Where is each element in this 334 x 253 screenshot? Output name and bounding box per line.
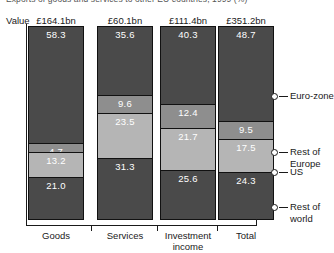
- bar-segment: 31.3: [97, 158, 153, 220]
- bar-goods: 58.34.713.221.0: [28, 26, 84, 223]
- segment-value: 31.3: [115, 159, 134, 172]
- callout-dot: [271, 149, 278, 156]
- legend-label-line-1: Rest of: [290, 146, 321, 158]
- segment-value: 25.6: [178, 171, 197, 184]
- x-axis-category-label: Total: [204, 230, 288, 241]
- segment-value: 48.7: [236, 27, 255, 40]
- bar-segment: 12.4: [160, 104, 216, 128]
- segment-value: 40.3: [178, 27, 197, 40]
- bar-segment: 21.0: [28, 177, 84, 220]
- bar-total: 48.79.517.524.3: [218, 26, 274, 223]
- segment-value: 21.0: [46, 178, 65, 191]
- bar-segment: 25.6: [160, 170, 216, 220]
- bar-segment: 40.3: [160, 26, 216, 105]
- segment-value: 58.3: [46, 27, 65, 40]
- chart-title-partial: Exports of goods and services to other E…: [6, 0, 306, 4]
- segment-value: 35.6: [115, 27, 134, 40]
- bar-segment: 35.6: [97, 26, 153, 96]
- legend-label-line-1: US: [290, 166, 303, 178]
- callout-dot: [271, 93, 278, 100]
- bar-investment: 40.312.421.725.6: [160, 26, 216, 223]
- bar-segment: 23.5: [97, 113, 153, 159]
- column-value-total: £351.2bn: [204, 15, 288, 26]
- bar-segment: 21.7: [160, 128, 216, 171]
- callout-leader-line: [279, 96, 288, 97]
- legend-label-euro-zone: Euro-zone: [290, 90, 334, 102]
- segment-value: 12.4: [178, 105, 197, 118]
- segment-value: 23.5: [115, 114, 134, 127]
- segment-value: 24.3: [236, 173, 255, 186]
- callout-dot: [271, 169, 278, 176]
- segment-value: 17.5: [236, 140, 255, 153]
- segment-value: 21.7: [178, 129, 197, 142]
- bar-segment: 17.5: [218, 139, 274, 173]
- legend-label-line-1: Rest of: [290, 201, 320, 213]
- bar-segment: 24.3: [218, 172, 274, 220]
- category-line-1: Total: [204, 230, 288, 241]
- legend-label-rest-of: Rest ofworld: [290, 201, 320, 224]
- segment-value: 9.5: [239, 122, 253, 135]
- bar-segment: 9.5: [218, 121, 274, 140]
- legend-label-line-1: Euro-zone: [290, 90, 334, 102]
- x-axis-end-cap-right: [256, 219, 257, 226]
- legend-label-line-2: world: [290, 213, 320, 225]
- segment-value: 9.6: [118, 96, 132, 109]
- legend-label-us: US: [290, 166, 303, 178]
- bar-segment: 13.2: [28, 152, 84, 179]
- bar-segment: 58.3: [28, 26, 84, 144]
- x-axis-line: [26, 225, 256, 226]
- callout-leader-line: [279, 172, 288, 173]
- y-axis-line: [26, 24, 27, 225]
- bar-segment: 48.7: [218, 26, 274, 122]
- category-line-2: income: [146, 241, 230, 252]
- segment-value: 13.2: [46, 153, 65, 166]
- callout-leader-line: [279, 152, 288, 153]
- bar-segment: 9.6: [97, 95, 153, 114]
- bar-services: 35.69.623.531.3: [97, 26, 153, 223]
- callout-dot: [271, 204, 278, 211]
- x-axis-end-cap-left: [26, 219, 27, 226]
- callout-leader-line: [279, 207, 288, 208]
